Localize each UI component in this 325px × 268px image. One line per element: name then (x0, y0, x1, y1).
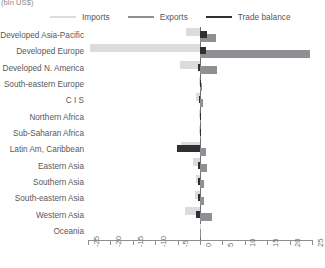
x-axis-tick (312, 240, 313, 245)
bar-trade-balance (198, 178, 200, 185)
bar-exports (200, 66, 217, 74)
bar-trade-balance (200, 113, 201, 120)
bar-exports (200, 148, 206, 156)
bar-exports (200, 197, 204, 205)
bar-exports (200, 99, 203, 107)
chart-row (88, 77, 312, 93)
legend-exports[interactable]: Exports (128, 12, 188, 22)
bar-exports (200, 213, 212, 221)
category-label: Oceania (0, 227, 84, 236)
bar-trade-balance (177, 145, 200, 152)
bar-exports (200, 229, 201, 237)
x-axis-tick (245, 240, 246, 245)
x-axis-tick (290, 240, 291, 245)
bar-trade-balance (199, 96, 200, 103)
category-label: Developed Europe (0, 47, 84, 56)
bar-trade-balance (200, 31, 207, 38)
plot-area (88, 28, 312, 240)
x-axis-tick (178, 240, 179, 245)
chart-row (88, 28, 312, 44)
bar-trade-balance (198, 162, 200, 169)
category-label: Sub-Saharan Africa (0, 129, 84, 138)
x-axis-tick-label: 5 (226, 243, 235, 247)
bar-imports (90, 44, 200, 52)
category-axis-labels: Developed Asia-PacificDeveloped EuropeDe… (0, 28, 84, 240)
category-label: Developed N. America (0, 64, 84, 73)
x-axis-tick-label: 25 (316, 239, 325, 247)
x-axis-tick-label: 0 (204, 243, 213, 247)
legend-trade-balance-swatch (206, 16, 232, 18)
legend-exports-swatch (128, 16, 154, 18)
bar-exports (200, 50, 310, 58)
bar-exports (200, 180, 204, 188)
x-axis-tick-label: -25 (92, 236, 101, 247)
x-axis-tick-label: -20 (114, 236, 123, 247)
chart-row (88, 142, 312, 158)
x-axis-tick (133, 240, 134, 245)
x-axis-tick-label: 20 (293, 239, 302, 247)
bar-trade-balance (200, 129, 201, 136)
legend-trade-balance[interactable]: Trade balance (206, 12, 291, 22)
chart-row (88, 175, 312, 191)
legend-trade-balance-label: Trade balance (238, 12, 291, 22)
category-label: Northern Africa (0, 113, 84, 122)
x-axis-tick-label: 10 (248, 239, 257, 247)
bar-trade-balance (196, 211, 200, 218)
chart-row (88, 93, 312, 109)
chart-row (88, 207, 312, 223)
category-label: Southern Asia (0, 178, 84, 187)
chart-row (88, 44, 312, 60)
bar-trade-balance (198, 194, 200, 201)
chart-row (88, 126, 312, 142)
category-label: Latin Am, Caribbean (0, 145, 84, 154)
category-label: Western Asia (0, 211, 84, 220)
x-axis-tick (88, 240, 89, 245)
category-label: South-eastern Asia (0, 194, 84, 203)
category-label: Developed Asia-Pacific (0, 31, 84, 40)
bar-trade-balance (198, 64, 200, 71)
bar-imports (186, 28, 200, 36)
chart-row (88, 61, 312, 77)
category-label: C I S (0, 96, 84, 105)
legend-imports[interactable]: Imports (50, 12, 110, 22)
chart-row (88, 191, 312, 207)
chart-row (88, 110, 312, 126)
bar-trade-balance (200, 80, 201, 87)
legend-imports-label: Imports (82, 12, 110, 22)
legend-imports-swatch (50, 16, 76, 18)
x-axis-tick-label: -10 (159, 236, 168, 247)
x-axis-tick-label: -5 (181, 240, 190, 247)
x-axis-tick (267, 240, 268, 245)
x-axis-tick (200, 240, 201, 245)
chart-legend: ImportsExportsTrade balance (50, 11, 309, 23)
x-axis-tick-label: 15 (271, 239, 280, 247)
chart-row (88, 158, 312, 174)
bar-exports (200, 164, 207, 172)
bar-imports (180, 61, 200, 69)
x-axis-tick-label: -15 (136, 236, 145, 247)
bar-trade-balance (200, 47, 206, 54)
unit-label: (bln US$) (1, 0, 34, 7)
x-axis-tick (110, 240, 111, 245)
x-axis-tick (222, 240, 223, 245)
x-axis: -25-20-15-10-50510152025 (88, 240, 312, 268)
category-label: Eastern Asia (0, 162, 84, 171)
category-label: South-eastern Europe (0, 80, 84, 89)
x-axis-tick (155, 240, 156, 245)
legend-exports-label: Exports (160, 12, 188, 22)
